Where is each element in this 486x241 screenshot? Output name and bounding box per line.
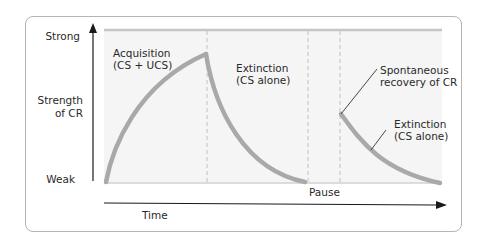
phase-recovery-line1: Spontaneous (380, 64, 449, 76)
y-axis-arrow-icon (89, 23, 97, 33)
phase-acquisition-line2: (CS + UCS) (113, 59, 172, 71)
phase-extinction2-line1: Extinction (394, 118, 446, 130)
phase-recovery-line2: recovery of CR (380, 76, 457, 88)
phase-extinction1-line2: (CS alone) (236, 74, 290, 86)
y-label-strength-line2: of CR (25, 107, 83, 119)
x-axis-arrow-icon (436, 201, 447, 209)
y-label-strong: Strong (30, 30, 80, 42)
phase-pause: Pause (309, 186, 340, 198)
x-axis (104, 203, 436, 205)
phase-acquisition-line1: Acquisition (113, 47, 171, 59)
phase-extinction1-line1: Extinction (236, 62, 288, 74)
y-label-weak: Weak (30, 173, 75, 185)
phase-extinction2-line2: (CS alone) (394, 130, 448, 142)
x-label-time: Time (142, 209, 168, 221)
y-label-strength-line1: Strength (25, 94, 83, 106)
